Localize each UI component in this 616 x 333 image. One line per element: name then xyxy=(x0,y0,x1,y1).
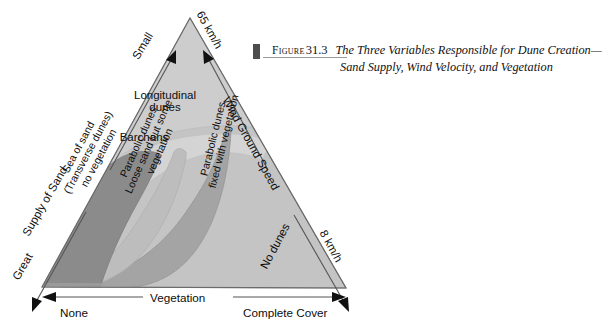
axis-end-label-complete-cover: Complete Cover xyxy=(243,307,327,320)
caption-title-line-1: The Three Variables Responsible for Dune… xyxy=(336,43,602,57)
caption-title-line-2: Sand Supply, Wind Velocity, and Vegetati… xyxy=(340,60,553,74)
caption-rule-row: Figure31.3The Three Variables Responsibl… xyxy=(253,44,611,58)
figure-caption: Figure31.3The Three Variables Responsibl… xyxy=(253,44,611,58)
caption-line-1: Figure31.3The Three Variables Responsibl… xyxy=(272,42,612,58)
axis-label-vegetation: Vegetation xyxy=(150,292,205,305)
caption-accent-bar xyxy=(253,44,260,59)
caption-line-2: Sand Supply, Wind Velocity, and Vegetati… xyxy=(340,59,612,75)
caption-figure-word: Figure xyxy=(272,44,305,56)
caption-figure-number: 31.3 xyxy=(306,43,328,57)
figure-31-3: Longitudinal dunes Barchans Sea of sand … xyxy=(0,0,616,333)
axis-end-label-none: None xyxy=(60,307,88,320)
caption-text: Figure31.3The Three Variables Responsibl… xyxy=(272,42,612,74)
